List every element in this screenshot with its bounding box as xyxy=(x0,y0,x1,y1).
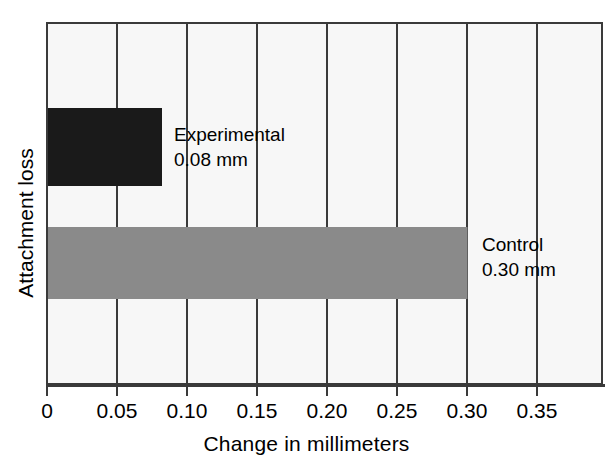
bar-label-experimental: Experimental 0.08 mm xyxy=(174,122,285,172)
gridline-0.20 xyxy=(326,24,328,383)
x-axis-title: Change in millimeters xyxy=(0,432,613,456)
gridline-0.10 xyxy=(186,24,188,383)
bar-label-experimental-name: Experimental xyxy=(174,122,285,147)
x-tick-label-0.05: 0.05 xyxy=(97,398,138,423)
bar-label-control-name: Control xyxy=(482,232,556,257)
gridline-0.05 xyxy=(116,24,118,383)
x-tick-label-0.15: 0.15 xyxy=(237,398,278,423)
bar-label-control: Control 0.30 mm xyxy=(482,232,556,282)
plot-area: Experimental 0.08 mm Control 0.30 mm xyxy=(46,22,603,385)
bar-experimental xyxy=(48,108,162,186)
x-tick-label-0.10: 0.10 xyxy=(167,398,208,423)
gridline-0.35 xyxy=(536,24,538,383)
bar-label-experimental-value: 0.08 mm xyxy=(174,147,285,172)
gridline-0.25 xyxy=(396,24,398,383)
x-tick-label-0.20: 0.20 xyxy=(307,398,348,423)
x-tick-label-0: 0 xyxy=(41,398,53,423)
x-tick-0.30 xyxy=(466,385,468,396)
x-tick-label-0.30: 0.30 xyxy=(447,398,488,423)
x-tick-0.35 xyxy=(536,385,538,396)
gridline-0.30 xyxy=(466,24,468,383)
x-tick-0 xyxy=(46,385,48,396)
x-tick-0.10 xyxy=(186,385,188,396)
bar-label-control-value: 0.30 mm xyxy=(482,257,556,282)
x-tick-0.20 xyxy=(326,385,328,396)
x-tick-label-0.25: 0.25 xyxy=(377,398,418,423)
x-tick-label-0.35: 0.35 xyxy=(517,398,558,423)
gridline-0.15 xyxy=(256,24,258,383)
bar-chart-figure: Attachment loss Experimental 0.08 mm Con… xyxy=(0,0,613,471)
y-axis-title: Attachment loss xyxy=(14,108,38,338)
bar-control xyxy=(48,227,468,299)
x-tick-0.15 xyxy=(256,385,258,396)
x-tick-0.25 xyxy=(396,385,398,396)
x-tick-0.05 xyxy=(116,385,118,396)
